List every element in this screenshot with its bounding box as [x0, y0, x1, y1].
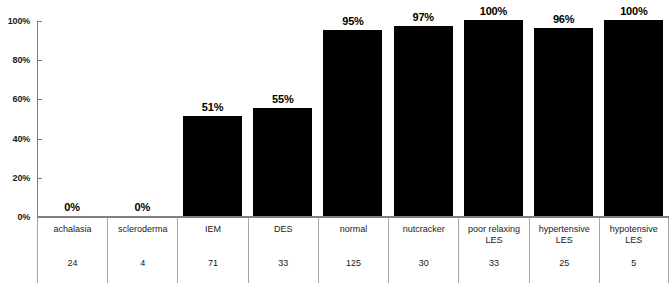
category-label-line1: hypertensive [532, 224, 597, 235]
category-label: hypertensiveLES [530, 224, 599, 246]
category-label: nutcracker [389, 224, 458, 235]
table-column: normal125 [318, 218, 388, 283]
bar-chart: 100%80%60%40%20%0% 0%0%51%55%95%97%100%9… [0, 0, 670, 283]
category-label: achalasia [38, 224, 107, 235]
bar-value-label: 55% [248, 93, 318, 105]
table-column: DES33 [248, 218, 318, 283]
bar-column: 0% [37, 18, 107, 216]
category-label: poor relaxingLES [459, 224, 528, 246]
bar-column: 96% [529, 18, 599, 216]
bar-value-label: 0% [107, 201, 177, 213]
category-count: 125 [319, 258, 388, 268]
y-axis-tick-label: 0% [17, 212, 30, 222]
table-column: IEM71 [177, 218, 247, 283]
category-label: DES [249, 224, 318, 235]
bar-column: 95% [318, 18, 388, 216]
category-count: 33 [249, 258, 318, 268]
category-label: IEM [178, 224, 247, 235]
bar [604, 20, 663, 216]
category-label-line1: achalasia [40, 224, 105, 235]
table-column: scleroderma4 [107, 218, 177, 283]
y-axis-tick-label: 20% [13, 173, 30, 183]
category-label: hypotensiveLES [600, 224, 668, 246]
category-table: achalasia24scleroderma4IEM71DES33normal1… [37, 217, 669, 283]
category-label-line1: IEM [180, 224, 245, 235]
category-label-line1: hypotensive [602, 224, 666, 235]
bar-column: 100% [458, 18, 528, 216]
category-label-line2: LES [461, 235, 526, 246]
plot-area: 0%0%51%55%95%97%100%96%100% [37, 18, 669, 217]
bar [183, 116, 242, 216]
table-column: achalasia24 [37, 218, 107, 283]
bar [253, 108, 312, 216]
bar-value-label: 95% [318, 15, 388, 27]
category-label-line2: LES [602, 235, 666, 246]
category-count: 5 [600, 258, 668, 268]
category-label: normal [319, 224, 388, 235]
table-column: hypertensiveLES25 [529, 218, 599, 283]
category-count: 25 [530, 258, 599, 268]
category-label-line1: normal [321, 224, 386, 235]
bar [394, 26, 453, 216]
category-count: 33 [459, 258, 528, 268]
table-column: hypotensiveLES5 [599, 218, 669, 283]
y-axis: 100%80%60%40%20%0% [0, 18, 38, 218]
bar-value-label: 96% [529, 13, 599, 25]
y-axis-tick-label: 100% [8, 16, 30, 26]
y-axis-tick-label: 60% [13, 94, 30, 104]
bar [464, 20, 523, 216]
bar-value-label: 0% [37, 201, 107, 213]
bar-value-label: 100% [458, 5, 528, 17]
bar-value-label: 97% [388, 11, 458, 23]
bar-value-label: 100% [599, 5, 669, 17]
bar-column: 97% [388, 18, 458, 216]
bar [323, 30, 382, 216]
category-label-line1: nutcracker [391, 224, 456, 235]
category-label-line1: DES [251, 224, 316, 235]
bar-column: 0% [107, 18, 177, 216]
category-label-line2: LES [532, 235, 597, 246]
category-count: 30 [389, 258, 458, 268]
table-column: poor relaxingLES33 [458, 218, 528, 283]
y-axis-tick-label: 80% [13, 55, 30, 65]
table-column: nutcracker30 [388, 218, 458, 283]
bar-value-label: 51% [177, 101, 247, 113]
category-label: scleroderma [108, 224, 177, 235]
category-label-line1: poor relaxing [461, 224, 526, 235]
category-count: 24 [38, 258, 107, 268]
category-count: 4 [108, 258, 177, 268]
bar-column: 51% [177, 18, 247, 216]
bar-column: 100% [599, 18, 669, 216]
bar-column: 55% [248, 18, 318, 216]
y-axis-tick-label: 40% [13, 134, 30, 144]
category-count: 71 [178, 258, 247, 268]
category-label-line1: scleroderma [110, 224, 175, 235]
bar [534, 28, 593, 216]
